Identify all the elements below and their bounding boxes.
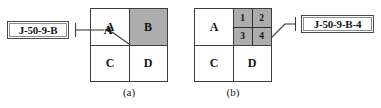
grid-a-cell-top-left-label: A (106, 20, 115, 35)
grid-b-cell-bottom-left-label: C (210, 56, 219, 71)
grid-a-cell-top-left: A (91, 9, 129, 45)
callout-label-right: J-50-9-B-4 (301, 15, 374, 33)
grid-a-cell-bottom-right-label: D (144, 56, 153, 71)
callout-label-left-text: J-50-9-B (19, 24, 58, 36)
caption-panel-b: (b) (213, 86, 253, 98)
callout-label-left: J-50-9-B (7, 21, 69, 39)
grid-a-cell-top-right: B (129, 9, 167, 45)
grid-a-cell-bottom-left-label: C (106, 56, 115, 71)
grid-b-subgrid: 1 2 3 4 (233, 9, 271, 45)
grid-a-horizontal-divider (91, 45, 167, 46)
leader-line-right (271, 17, 296, 38)
grid-b-subcell-3: 3 (233, 27, 252, 45)
grid-b-subcell-4: 4 (252, 27, 271, 45)
grid-a-cell-bottom-left: C (91, 45, 129, 81)
grid-b-subcell-1: 1 (233, 9, 252, 27)
caption-panel-a: (a) (109, 86, 149, 98)
grid-b-cell-bottom-left: C (195, 45, 233, 81)
grid-b-subcell-2-label: 2 (259, 13, 264, 23)
grid-b-cell-bottom-right: D (233, 45, 271, 81)
grid-b-subcell-4-label: 4 (259, 31, 264, 41)
grid-a-cell-top-right-label: B (144, 20, 152, 35)
callout-label-right-text: J-50-9-B-4 (314, 18, 362, 30)
grid-a-cell-bottom-right: D (129, 45, 167, 81)
grid-b-subcell-2: 2 (252, 9, 271, 27)
leader-right-diagonal (271, 24, 285, 38)
grid-b-cell-top-left: A (195, 9, 233, 45)
grid-b-cell-top-left-label: A (210, 20, 219, 35)
grid-b-subcell-1-label: 1 (240, 13, 245, 23)
grid-b-horizontal-divider (195, 45, 271, 46)
figure-root: J-50-9-B A B C D (a) A 1 2 (0, 0, 381, 108)
caption-panel-b-text: (b) (227, 86, 240, 98)
grid-b-subgrid-horizontal-divider (233, 27, 271, 28)
grid-b-subcell-3-label: 3 (240, 31, 245, 41)
grid-b-cell-bottom-right-label: D (248, 56, 257, 71)
caption-panel-a-text: (a) (123, 86, 135, 98)
grid-panel-a: A B C D (90, 8, 168, 82)
grid-panel-b: A 1 2 3 4 C D (194, 8, 272, 82)
